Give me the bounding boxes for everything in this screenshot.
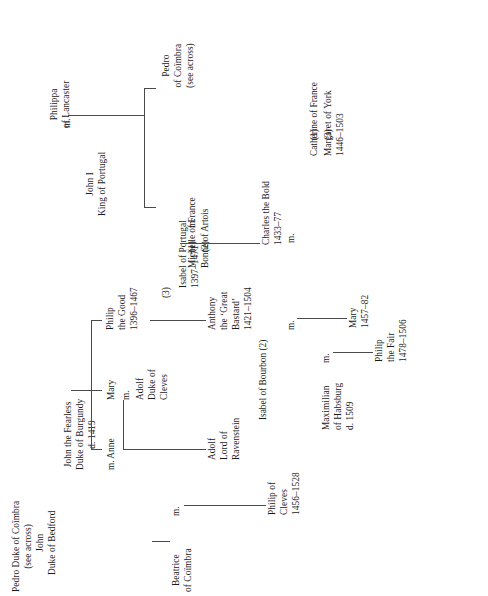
- descent-line-charles-the-bold: [180, 243, 260, 244]
- person-mary-1457: Mary 1457–82: [347, 295, 371, 328]
- person-adolf-lord-of-ravenstein-line-1: Lord of: [218, 418, 230, 460]
- person-philip-of-cleves-line-0: Philip of: [266, 472, 278, 515]
- person-adolf-duke-of-cleves: Adolf Duke of Cleves: [134, 369, 170, 400]
- person-pedro-duke-of-coimbra: Pedro Duke of Coïmbra (see across): [10, 501, 34, 592]
- descent-line-ravenstein: [123, 449, 206, 450]
- sibling-stub-philip-the-good: [91, 320, 102, 321]
- person-philip-the-good-line-0: Philip: [104, 287, 116, 330]
- person-john-the-fearless-line-0: John the Fearless: [62, 399, 74, 470]
- person-mary-1457-line-1: 1457–82: [359, 295, 371, 328]
- person-anthony-great-bastard-line-1: the ‘Great: [218, 287, 230, 330]
- genealogy-chart: Philippa of Lancaster m. John I King of …: [0, 0, 488, 596]
- marriage-marker-anne: m. Anne: [105, 438, 117, 470]
- person-pedro-of-coimbra: Pedro of Coïmbra (see across): [160, 43, 196, 88]
- person-margaret-of-york: Margaret of York 1446–1503: [322, 90, 346, 156]
- person-pedro-duke-of-coimbra-line-0: Pedro Duke of Coïmbra: [10, 501, 22, 592]
- person-john-the-fearless: John the Fearless Duke of Burgundy d. 14…: [62, 399, 98, 470]
- person-maximilian-of-habsburg-line-1: of Habsburg: [332, 383, 344, 430]
- person-philip-the-good-line-2: 1396–1467: [128, 287, 140, 330]
- person-john-i-line-0: John I: [84, 152, 96, 216]
- person-charles-the-bold: Charles the Bold 1433–77: [260, 181, 284, 245]
- person-anthony-great-bastard-line-2: Bastard’: [230, 287, 242, 330]
- person-adolf-lord-of-ravenstein-line-2: Ravenstein: [230, 418, 242, 460]
- marriage-marker-philippa: m.: [61, 118, 73, 128]
- person-john-i: John I King of Portugal: [84, 152, 108, 216]
- person-beatrice-of-coimbra-line-1: of Coïmbra: [182, 548, 194, 592]
- person-maximilian-of-habsburg-line-0: Maximilian: [320, 383, 332, 430]
- person-adolf-duke-of-cleves-line-2: Cleves: [158, 369, 170, 400]
- person-philip-the-fair-line-2: 1478–1506: [397, 319, 409, 362]
- descent-line-mary-1457: [297, 318, 347, 319]
- person-john-duke-of-bedford-line-0: John: [34, 511, 46, 576]
- person-john-duke-of-bedford-line-1: Duke of Bedford: [46, 511, 58, 576]
- person-philip-the-fair: Philip the Fair 1478–1506: [373, 319, 409, 362]
- sibling-bracket-john-i: [144, 88, 145, 208]
- descent-line-philip-the-fair: [333, 352, 373, 353]
- person-philip-of-cleves-line-2: 1456–1528: [290, 472, 302, 515]
- person-anthony-great-bastard-line-3: 1421–1504: [242, 287, 254, 330]
- marriage-marker-mary-adolf: m.: [120, 390, 132, 400]
- person-john-the-fearless-line-1: Duke of Burgundy: [74, 399, 86, 470]
- person-maximilian-of-habsburg: Maximilian of Habsburg d. 1509: [320, 383, 356, 430]
- person-maximilian-of-habsburg-line-2: d. 1509: [344, 383, 356, 430]
- descent-line-john-i: [68, 115, 144, 116]
- marriage-marker-isabel-bourbon: m.: [285, 320, 297, 330]
- person-beatrice-of-coimbra: Beatrice of Coïmbra: [170, 548, 194, 592]
- person-pedro-of-coimbra-line-2: (see across): [184, 43, 196, 88]
- sibling-bracket-burgundy: [91, 320, 92, 450]
- person-philippa-line-0: Philippa: [48, 81, 60, 128]
- person-bonne-of-artois: Bonne of Artois: [199, 209, 211, 268]
- person-charles-the-bold-line-1: 1433–77: [272, 181, 284, 245]
- person-adolf-duke-of-cleves-line-0: Adolf: [134, 369, 146, 400]
- person-pedro-of-coimbra-line-1: of Coïmbra: [172, 43, 184, 88]
- person-anthony-great-bastard-line-0: Anthony: [206, 287, 218, 330]
- person-michelle-of-france: Michelle of France: [186, 197, 198, 268]
- person-philip-the-fair-line-1: the Fair: [385, 319, 397, 362]
- person-pedro-of-coimbra-line-0: Pedro: [160, 43, 172, 88]
- person-john-duke-of-bedford: John Duke of Bedford: [34, 511, 58, 576]
- sibling-stub-mary: [91, 390, 102, 391]
- marriage-marker-beatrice: m.: [170, 506, 182, 516]
- marriage-marker-maximilian: m.: [320, 353, 332, 363]
- person-philip-the-good: Philip the Good 1396–1467: [104, 287, 140, 330]
- sibling-stub-isabel: [144, 207, 156, 208]
- person-adolf-duke-of-cleves-line-1: Duke of: [146, 369, 158, 400]
- person-beatrice-of-coimbra-line-0: Beatrice: [170, 548, 182, 592]
- descent-line-beatrice: [152, 541, 170, 542]
- person-adolf-lord-of-ravenstein-line-0: Adolf: [206, 418, 218, 460]
- person-pedro-duke-of-coimbra-line-1: (see across): [22, 501, 34, 592]
- person-john-i-line-1: King of Portugal: [96, 152, 108, 216]
- sibling-stub-pedro: [144, 88, 156, 89]
- person-isabel-of-bourbon: Isabel of Bourbon (2): [257, 340, 269, 420]
- descent-line-anthony: [150, 320, 206, 321]
- marriage-marker-charles: m.: [285, 233, 297, 243]
- person-john-the-fearless-line-2: d. 1419: [86, 399, 98, 470]
- ordinal-isabel-portugal: (3): [160, 287, 172, 298]
- descent-line-philip-of-cleves: [184, 505, 266, 506]
- person-catherine-of-france: Catherine of France: [308, 82, 320, 156]
- person-margaret-of-york-line-0: Margaret of York: [322, 90, 334, 156]
- person-adolf-lord-of-ravenstein: Adolf Lord of Ravenstein: [206, 418, 242, 460]
- sibling-stub-anne: [91, 449, 102, 450]
- person-charles-the-bold-line-0: Charles the Bold: [260, 181, 272, 245]
- person-mary-of-burgundy: Mary: [105, 380, 117, 400]
- person-mary-1457-line-0: Mary: [347, 295, 359, 328]
- descent-drop-ravenstein: [123, 400, 124, 450]
- person-philip-of-cleves: Philip of Cleves 1456–1528: [266, 472, 302, 515]
- person-anthony-great-bastard: Anthony the ‘Great Bastard’ 1421–1504: [206, 287, 254, 330]
- person-philip-of-cleves-line-1: Cleves: [278, 472, 290, 515]
- person-margaret-of-york-line-1: 1446–1503: [334, 90, 346, 156]
- person-philip-the-fair-line-0: Philip: [373, 319, 385, 362]
- person-philip-the-good-line-1: the Good: [116, 287, 128, 330]
- descent-line-john-the-fearless: [71, 390, 91, 391]
